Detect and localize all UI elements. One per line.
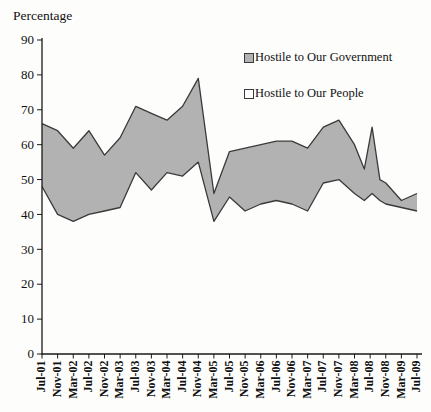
x-tick-label: Jul-05 <box>222 361 236 393</box>
x-tick-label: Jul-08 <box>362 361 376 393</box>
legend-label-people: Hostile to Our People <box>255 87 364 100</box>
x-tick-label: Jul-04 <box>175 361 189 393</box>
x-tick-label: Nov-05 <box>237 361 251 398</box>
y-tick-label: 20 <box>21 276 34 291</box>
x-tick-label: Jul-09 <box>409 361 423 393</box>
y-tick-label: 80 <box>21 67 34 82</box>
x-tick-label: Jul-01 <box>34 361 48 393</box>
y-tick-label: 40 <box>21 207 34 222</box>
x-tick-label: Mar-09 <box>394 361 408 399</box>
y-tick-label: 10 <box>21 311 34 326</box>
x-tick-label: Jul-03 <box>128 361 142 393</box>
x-tick-label: Mar-03 <box>112 361 126 399</box>
y-tick-label: 90 <box>21 32 34 47</box>
legend-item-government: Hostile to Our Government <box>244 51 392 64</box>
x-tick-label: Mar-06 <box>253 361 267 399</box>
x-tick-label: Jul-07 <box>315 361 329 393</box>
legend: Hostile to Our Government Hostile to Our… <box>244 51 392 123</box>
chart-figure: Percentage 0102030405060708090Jul-01Nov-… <box>0 0 431 412</box>
y-tick-label: 0 <box>28 346 35 361</box>
y-tick-label: 30 <box>21 242 34 257</box>
legend-label-government: Hostile to Our Government <box>255 51 392 64</box>
x-tick-label: Mar-05 <box>206 361 220 399</box>
x-tick-label: Mar-07 <box>300 361 314 399</box>
x-tick-label: Nov-03 <box>144 361 158 398</box>
x-tick-label: Jul-02 <box>81 361 95 393</box>
x-tick-label: Jul-06 <box>269 361 283 393</box>
y-tick-label: 60 <box>21 137 34 152</box>
x-tick-label: Nov-07 <box>331 361 345 398</box>
x-tick-label: Nov-01 <box>50 361 64 398</box>
x-tick-label: Mar-04 <box>159 361 173 399</box>
x-tick-label: Nov-06 <box>284 361 298 398</box>
legend-swatch-people <box>244 89 254 99</box>
x-tick-label: Mar-08 <box>347 361 361 399</box>
x-tick-label: Mar-02 <box>66 361 80 399</box>
x-tick-label: Nov-08 <box>378 361 392 398</box>
legend-swatch-government <box>244 53 254 63</box>
x-tick-label: Nov-04 <box>190 361 204 398</box>
y-tick-label: 70 <box>21 102 34 117</box>
legend-item-people: Hostile to Our People <box>244 87 392 100</box>
y-tick-label: 50 <box>21 172 34 187</box>
x-tick-label: Nov-02 <box>97 361 111 398</box>
